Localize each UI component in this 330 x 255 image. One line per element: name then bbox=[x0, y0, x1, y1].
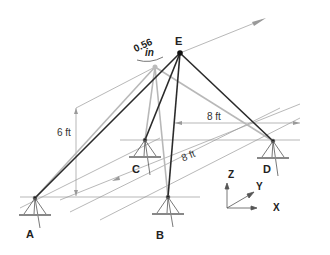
space-frame-diagram bbox=[0, 0, 330, 255]
support-D bbox=[257, 139, 289, 176]
label-A: A bbox=[26, 229, 34, 240]
coordinate-axes bbox=[225, 183, 257, 210]
apex-point-E bbox=[177, 50, 183, 56]
axis-x-label: X bbox=[273, 203, 280, 213]
label-C: C bbox=[132, 164, 140, 175]
label-B: B bbox=[156, 230, 164, 241]
width-dimension-label: 8 ft bbox=[207, 112, 221, 122]
original-apex-point bbox=[153, 65, 158, 70]
support-B bbox=[152, 195, 184, 227]
support-A bbox=[19, 196, 51, 228]
height-dimension-label: 6 ft bbox=[57, 128, 71, 138]
label-E: E bbox=[175, 36, 182, 47]
axis-y-label: Y bbox=[256, 182, 263, 192]
displacement-unit-label: in bbox=[145, 48, 154, 58]
axis-z-label: Z bbox=[228, 170, 234, 180]
label-D: D bbox=[263, 164, 271, 175]
